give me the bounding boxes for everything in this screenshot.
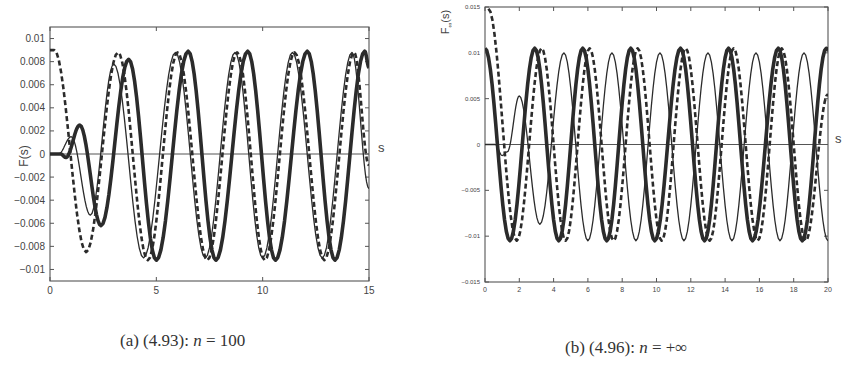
- caption-b-prefix: (b) (4.96):: [565, 338, 639, 357]
- y-tick-label: 0: [39, 149, 45, 160]
- series-thin: [485, 53, 828, 241]
- caption-b: (b) (4.96): n = +∞: [565, 338, 687, 358]
- y-tick-label: −0.01: [20, 264, 46, 275]
- x-tick-label: 20: [824, 286, 832, 293]
- y-axis-label: F(s): [17, 145, 31, 166]
- x-tick-label: 0: [483, 286, 487, 293]
- x-tick-label: 15: [363, 285, 375, 296]
- y-tick-label: 0.005: [465, 96, 481, 102]
- series-dashed: [488, 9, 828, 241]
- x-tick-label: 14: [721, 286, 729, 293]
- chart-b: 0.0150.010.0050−0.005−0.01−0.01502468101…: [425, 0, 851, 320]
- x-axis-label: s: [835, 131, 842, 146]
- y-axis-label: F∞(s): [439, 10, 453, 34]
- x-tick-label: 12: [687, 286, 695, 293]
- y-tick-label: 0: [477, 142, 481, 148]
- x-axis-label: s: [378, 140, 385, 155]
- y-tick-label: 0.01: [26, 33, 46, 44]
- x-tick-label: 16: [756, 286, 764, 293]
- y-tick-label: −0.01: [465, 233, 481, 239]
- x-tick-label: 0: [47, 285, 53, 296]
- y-tick-label: −0.005: [461, 187, 480, 193]
- x-tick-label: 18: [790, 286, 798, 293]
- caption-a-value: = 100: [202, 331, 246, 350]
- figure-panel-b: 0.0150.010.0050−0.005−0.01−0.01502468101…: [425, 0, 851, 320]
- figure-panel-a: 0.010.0080.0060.0040.0020−0.002−0.004−0.…: [0, 0, 425, 320]
- y-tick-label: 0.004: [20, 102, 45, 113]
- y-tick-label: −0.006: [14, 218, 45, 229]
- y-tick-label: 0.01: [468, 50, 480, 56]
- x-tick-label: 6: [586, 286, 590, 293]
- x-tick-label: 2: [517, 286, 521, 293]
- y-tick-label: −0.015: [461, 279, 480, 285]
- y-tick-label: 0.002: [20, 125, 45, 136]
- caption-b-value: = +∞: [648, 338, 688, 357]
- y-tick-label: 0.006: [20, 79, 45, 90]
- y-tick-label: 0.015: [465, 4, 481, 10]
- caption-a-prefix: (a) (4.93):: [120, 331, 193, 350]
- x-tick-label: 4: [552, 286, 556, 293]
- y-tick-label: −0.002: [14, 172, 45, 183]
- caption-a: (a) (4.93): n = 100: [120, 331, 245, 351]
- x-tick-label: 10: [257, 285, 269, 296]
- caption-a-variable: n: [193, 331, 202, 350]
- y-tick-label: −0.008: [14, 241, 45, 252]
- chart-a: 0.010.0080.0060.0040.0020−0.002−0.004−0.…: [0, 0, 425, 320]
- y-tick-label: −0.004: [14, 195, 45, 206]
- x-tick-label: 8: [620, 286, 624, 293]
- y-tick-label: 0.008: [20, 56, 45, 67]
- x-tick-label: 5: [154, 285, 160, 296]
- caption-b-variable: n: [639, 338, 648, 357]
- x-tick-label: 10: [653, 286, 661, 293]
- series-thick: [50, 51, 369, 260]
